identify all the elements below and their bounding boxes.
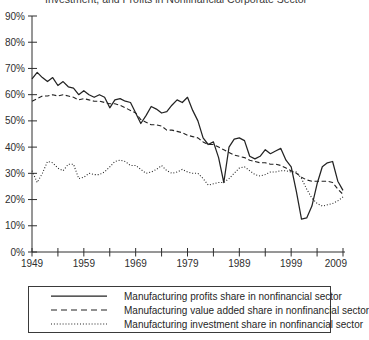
x-axis-tick-label: 1989 [228,258,251,269]
series-line-dashed [32,95,343,195]
legend-item-investment: Manufacturing investment share in nonfin… [29,317,330,331]
y-axis-tick-label: 50% [5,115,25,126]
y-axis-tick-label: 90% [5,11,25,22]
series-line-solid [32,72,343,219]
dotted-line-icon [50,317,108,331]
x-axis-tick-label: 1969 [125,258,148,269]
dashed-line-icon [50,303,108,317]
x-axis-tick-label: 1979 [176,258,199,269]
legend-item-profits: Manufacturing profits share in nonfinanc… [29,289,330,303]
y-axis-tick-label: 70% [5,63,25,74]
chart-svg: 0%10%20%30%40%50%60%70%80%90%19491959196… [0,0,352,280]
legend-box: Manufacturing profits share in nonfinanc… [28,286,331,333]
legend-item-value-added: Manufacturing value added share in nonfi… [29,303,330,317]
y-axis-tick-label: 60% [5,89,25,100]
legend-label-investment: Manufacturing investment share in nonfin… [124,319,363,330]
y-axis-tick-label: 30% [5,168,25,179]
y-axis-tick-label: 20% [5,194,25,205]
y-axis-tick-label: 40% [5,142,25,153]
x-axis-tick-label: 1949 [21,258,44,269]
series-line-dotted [32,160,343,206]
solid-line-icon [50,289,108,303]
y-axis-tick-label: 0% [11,247,26,258]
legend-label-value-added: Manufacturing value added share in nonfi… [124,305,369,316]
y-axis-tick-label: 10% [5,220,25,231]
y-axis-tick-label: 80% [5,37,25,48]
x-axis-tick-label: 2009 [325,258,348,269]
legend-label-profits: Manufacturing profits share in nonfinanc… [124,291,342,302]
x-axis-tick-label: 1959 [73,258,96,269]
x-axis-tick-label: 1999 [280,258,303,269]
